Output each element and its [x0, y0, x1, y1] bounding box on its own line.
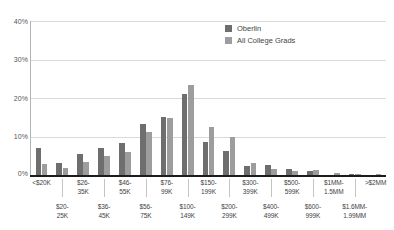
y-tick-label: 20%	[2, 95, 28, 102]
bars-layer	[31, 21, 386, 175]
x-tick-label: $26- 35K	[63, 179, 103, 196]
bar-all-college-grads	[188, 85, 194, 175]
bar-oberlin	[244, 166, 250, 175]
bar-oberlin	[36, 148, 42, 175]
bar-group	[198, 21, 219, 175]
bar-oberlin	[56, 163, 62, 175]
bar-group	[94, 21, 115, 175]
bar-group	[323, 21, 344, 175]
bar-all-college-grads	[125, 152, 131, 175]
bar-oberlin	[286, 169, 292, 175]
x-tick-label: $400- 499K	[251, 203, 291, 220]
x-tick-label: $200- 299K	[210, 203, 250, 220]
bar-oberlin	[265, 165, 271, 175]
bar-oberlin	[140, 124, 146, 175]
legend-item-all-college-grads: All College Grads	[225, 36, 295, 45]
bar-group	[302, 21, 323, 175]
bar-group	[31, 21, 52, 175]
x-tick-label: $600- 999K	[293, 203, 333, 220]
y-tick-label: 30%	[2, 56, 28, 63]
bar-all-college-grads	[83, 162, 89, 175]
bar-oberlin	[223, 151, 229, 175]
y-tick-label: 10%	[2, 133, 28, 140]
x-tick-label: $100- 149K	[168, 203, 208, 220]
bar-group	[73, 21, 94, 175]
x-tick-label: $150- 199K	[189, 179, 229, 196]
bar-all-college-grads	[209, 127, 215, 175]
bar-oberlin	[77, 154, 83, 175]
bar-oberlin	[349, 174, 355, 175]
x-tick-label: $56- 75K	[126, 203, 166, 220]
bar-all-college-grads	[104, 156, 110, 175]
bar-all-college-grads	[271, 169, 277, 175]
x-tick-label: $300- 399K	[230, 179, 270, 196]
bar-all-college-grads	[167, 118, 173, 175]
x-axis-labels: <$20K$20- 25K$26- 35K$36- 45K$46- 55K$56…	[31, 177, 386, 230]
bar-group	[365, 21, 386, 175]
x-tick-label: >$2MM	[356, 179, 394, 188]
x-tick-label: <$20K	[22, 179, 62, 188]
bar-oberlin	[161, 117, 167, 175]
legend-swatch-icon	[225, 25, 232, 32]
bar-oberlin	[119, 143, 125, 175]
bar-group	[344, 21, 365, 175]
y-axis-labels: 40% 30% 20% 10% 0%	[0, 0, 28, 230]
bar-all-college-grads	[42, 164, 48, 175]
y-tick-label: 40%	[2, 18, 28, 25]
x-tick-label: $36- 45K	[84, 203, 124, 220]
bar-all-college-grads	[251, 163, 257, 175]
bar-group	[135, 21, 156, 175]
bar-all-college-grads	[376, 174, 382, 175]
bar-oberlin	[98, 148, 104, 175]
chart-legend: Oberlin All College Grads	[225, 24, 295, 48]
bar-oberlin	[307, 171, 313, 175]
bar-all-college-grads	[292, 171, 298, 175]
bar-all-college-grads	[146, 132, 152, 176]
bar-all-college-grads	[230, 137, 236, 175]
bar-group	[177, 21, 198, 175]
bar-all-college-grads	[355, 174, 361, 175]
x-tick-label: $500- 599K	[272, 179, 312, 196]
bar-oberlin	[203, 142, 209, 175]
bar-all-college-grads	[63, 168, 69, 175]
bar-group	[52, 21, 73, 175]
x-tick-label: $76- 99K	[147, 179, 187, 196]
legend-label: Oberlin	[237, 24, 261, 33]
bar-chart: 40% 30% 20% 10% 0% Oberlin All College G…	[0, 0, 394, 230]
x-tick-label: $20- 25K	[42, 203, 82, 220]
bar-oberlin	[182, 94, 188, 175]
legend-label: All College Grads	[237, 36, 295, 45]
bar-group	[156, 21, 177, 175]
x-tick-label: $1MM- 1.5MM	[314, 179, 354, 196]
legend-item-oberlin: Oberlin	[225, 24, 295, 33]
x-tick-label: $1.6MM- 1.99MM	[335, 203, 375, 220]
legend-swatch-icon	[225, 37, 232, 44]
bar-all-college-grads	[334, 173, 340, 175]
bar-all-college-grads	[313, 170, 319, 175]
y-tick-label: 0%	[2, 170, 28, 177]
x-tick-label: $46- 55K	[105, 179, 145, 196]
bar-group	[115, 21, 136, 175]
